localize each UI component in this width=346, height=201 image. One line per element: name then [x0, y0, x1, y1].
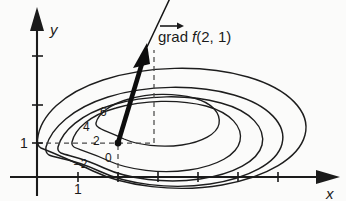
y-tick-label-1: 1 — [20, 136, 28, 150]
x-axis-label: x — [326, 186, 334, 201]
gradient-label: grad f(2, 1) — [158, 29, 231, 44]
contour-label-minus-2: –2 — [74, 158, 87, 170]
y-axis-label: y — [50, 22, 58, 37]
gradient-contour-figure: y x 1 1 6 4 2 0 –2 grad f(2, 1) — [0, 0, 346, 201]
contour-label-6: 6 — [100, 106, 107, 118]
y-axis-arrowhead — [30, 7, 44, 31]
gradient-arguments: (2, 1) — [196, 28, 231, 45]
dashed-guides-group — [37, 50, 154, 177]
vector-arrow-accent-icon — [159, 21, 185, 29]
contour-label-0: 0 — [105, 152, 112, 164]
x-axis-arrowhead — [316, 170, 340, 184]
contour-label-4: 4 — [83, 121, 90, 133]
gradient-label-inner: grad f(2, 1) — [158, 29, 231, 44]
gradient-arrowhead — [133, 43, 150, 68]
x-tick-label-1: 1 — [74, 182, 82, 196]
gradient-word: grad — [158, 29, 188, 44]
gradient-word-text: grad — [158, 28, 188, 45]
contour-label-2: 2 — [93, 135, 100, 147]
gradient-base-point-dot — [115, 140, 122, 147]
